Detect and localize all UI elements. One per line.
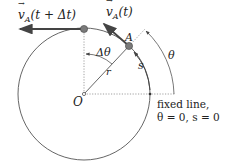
theta-label: θ	[168, 50, 175, 61]
fixed-line-label: fixed line,	[157, 99, 209, 110]
diagram-canvas	[0, 0, 232, 166]
particle-later	[80, 25, 87, 32]
fixed-line-point	[149, 93, 152, 96]
radius-label: r	[106, 67, 111, 77]
point-a-label: A	[125, 32, 133, 43]
velocity-later-label: v→A(t + Δt)	[18, 9, 76, 24]
velocity-now-label: v→A(t)	[106, 6, 133, 21]
arc-length-label: s	[138, 60, 144, 71]
origin-label: O	[73, 96, 83, 108]
theta-arc	[146, 31, 174, 94]
fixed-line-condition: θ = 0, s = 0	[157, 112, 220, 123]
delta-theta-label: Δθ	[96, 47, 111, 58]
